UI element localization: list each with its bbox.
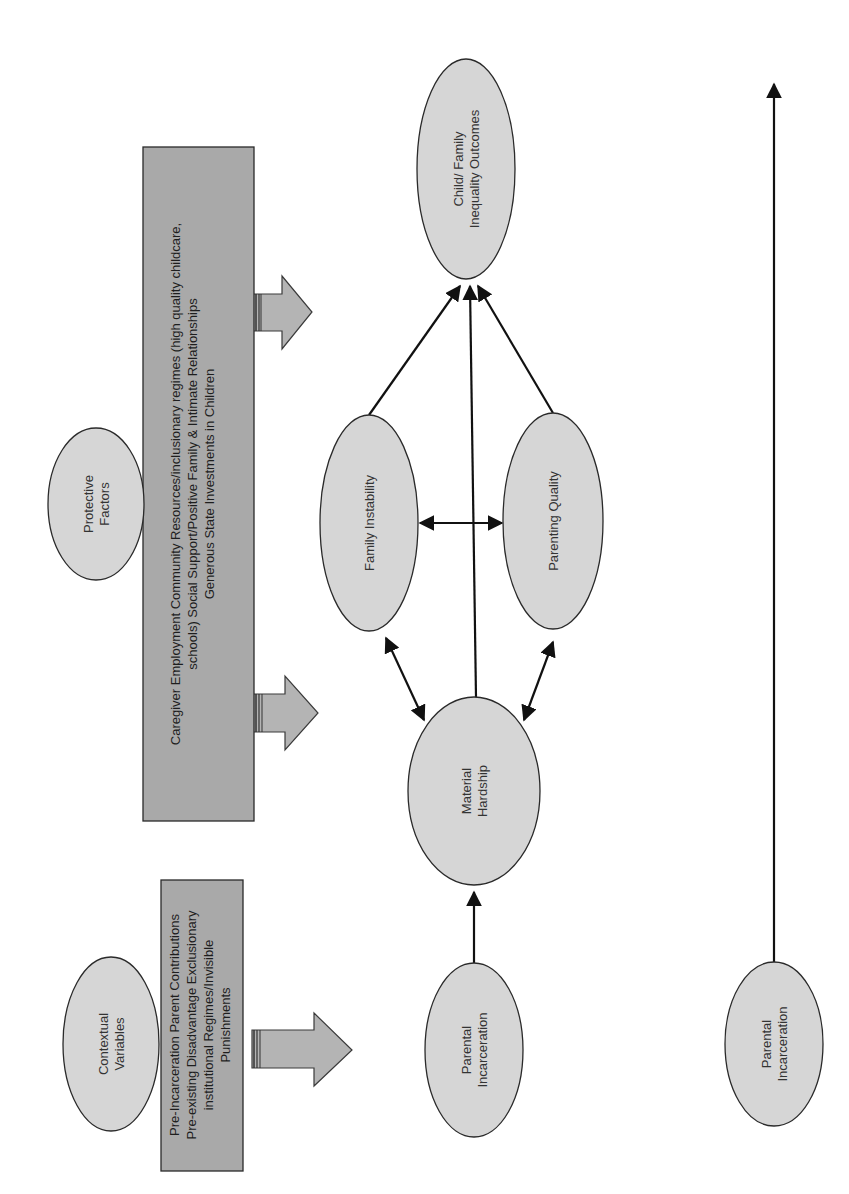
node-material-hardship: Material Hardship: [408, 697, 540, 885]
block-arrow-protective-to-hardship: [253, 676, 318, 750]
outcomes-line2: Inequality Outcomes: [467, 109, 482, 228]
arrow-hardship-to-outcomes: [470, 286, 476, 697]
protective-factors-line2: Factors: [97, 482, 112, 526]
arrow-parenting-quality-to-outcomes: [478, 286, 553, 413]
protective-factors-line1: Protective: [81, 475, 96, 533]
contextual-variables-line2: Variables: [112, 1017, 127, 1071]
node-parental-incarceration: Parental Incarceration: [425, 963, 523, 1137]
contextual-box-line2: Pre-existing Disadvantage Exclusionary: [184, 910, 199, 1140]
protective-box-line3: Generous State Investments in Children: [202, 369, 217, 600]
block-arrow-protective-to-outcomes: [253, 276, 312, 349]
arrow-family-instability-to-outcomes: [369, 286, 460, 415]
arrow-hardship-parenting-quality: [524, 642, 553, 720]
parental-incarceration-line1: Parental: [459, 1026, 474, 1075]
contextual-box-line1: Pre-Incarceration Parent Contributions: [167, 914, 182, 1136]
node-protective-factors: Protective Factors: [48, 428, 144, 580]
contextual-box-line4: Punishments: [218, 987, 233, 1063]
protective-box-line1: Caregiver Employment Community Resources…: [168, 223, 183, 745]
material-hardship-line2: Hardship: [475, 765, 490, 817]
contextual-variables-line1: Contextual: [96, 1013, 111, 1075]
timeline-incarceration-line2: Incarceration: [775, 1006, 790, 1081]
outcomes-line1: Child/ Family: [451, 131, 466, 207]
contextual-variables-box: Pre-Incarceration Parent Contributions P…: [161, 880, 243, 1171]
protective-factors-box: Caregiver Employment Community Resources…: [143, 147, 254, 821]
node-parental-incarceration-timeline: Parental Incarceration: [725, 962, 823, 1126]
timeline-incarceration-line1: Parental: [759, 1020, 774, 1069]
contextual-box-line3: institutional Regimes/Invisible: [201, 940, 216, 1111]
causal-diagram: Caregiver Employment Community Resources…: [0, 0, 849, 1194]
parenting-quality-label: Parenting Quality: [546, 471, 561, 571]
protective-box-line2: schools) Social Support/Positive Family …: [185, 298, 200, 670]
node-parenting-quality: Parenting Quality: [503, 413, 603, 629]
parental-incarceration-line2: Incarceration: [475, 1012, 490, 1087]
node-contextual-variables: Contextual Variables: [63, 957, 159, 1131]
family-instability-label: Family Instability: [362, 474, 377, 571]
material-hardship-line1: Material: [459, 768, 474, 814]
node-family-instability: Family Instability: [320, 415, 418, 631]
block-arrow-contextual-to-incarceration: [252, 1013, 352, 1086]
node-outcomes: Child/ Family Inequality Outcomes: [417, 59, 515, 279]
arrow-hardship-family-instability: [386, 638, 424, 720]
